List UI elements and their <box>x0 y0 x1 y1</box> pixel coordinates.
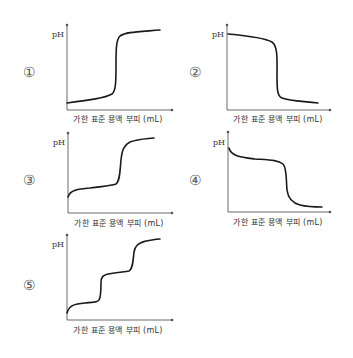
x-axis-label-3: 가한 표준 용액 부피 (mL) <box>74 217 163 228</box>
x-axis-label-1: 가한 표준 용액 부피 (mL) <box>73 113 162 124</box>
y-axis-label-5: pH <box>52 240 64 249</box>
y-axis-label-1: pH <box>52 30 64 39</box>
option-number-5: ⑤ <box>23 277 36 293</box>
y-axis-label-2: pH <box>212 30 224 39</box>
option-number-3: ③ <box>23 172 36 188</box>
curve-1 <box>67 30 160 103</box>
curve-5 <box>67 239 160 313</box>
x-axis-label-5: 가한 표준 용액 부피 (mL) <box>73 324 162 335</box>
panel-5-axes <box>66 234 173 321</box>
x-axis-label-4: 가한 표준 용액 부피 (mL) <box>233 216 322 227</box>
option-number-4: ④ <box>189 172 202 188</box>
panel-4-axes <box>227 131 331 213</box>
option-number-2: ② <box>189 64 202 80</box>
panel-2-axes <box>226 24 331 111</box>
x-axis-label-2: 가한 표준 용액 부피 (mL) <box>233 113 322 124</box>
y-axis-label-4: pH <box>213 138 225 147</box>
curve-3 <box>68 138 154 197</box>
curve-4 <box>229 148 322 207</box>
titration-curves-figure <box>0 0 353 358</box>
curve-2 <box>228 34 318 103</box>
y-axis-label-3: pH <box>53 138 65 147</box>
option-number-1: ① <box>23 64 36 80</box>
